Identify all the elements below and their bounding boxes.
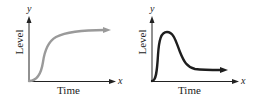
chart-logistic: y x Level Time	[0, 0, 128, 102]
x-axis-symbol: x	[118, 75, 122, 86]
y-axis-symbol: y	[150, 3, 154, 14]
chart-peak-decay: y x Level Time	[123, 0, 251, 102]
y-axis-label: Level	[136, 29, 148, 54]
y-axis	[150, 16, 155, 82]
x-axis-label: Time	[178, 84, 201, 96]
x-axis-arrow-icon	[232, 79, 239, 84]
x-axis-symbol: x	[241, 75, 245, 86]
x-axis-label: Time	[57, 84, 80, 96]
curve-arrow-icon	[220, 67, 228, 73]
y-axis-symbol: y	[27, 3, 31, 14]
logistic-curve	[29, 30, 104, 81]
peak-decay-curve	[152, 32, 221, 81]
curve-arrow-icon	[103, 27, 111, 33]
y-axis-label: Level	[13, 29, 25, 54]
y-axis-arrow-icon	[150, 16, 155, 23]
x-axis-arrow-icon	[109, 79, 116, 84]
y-axis-arrow-icon	[27, 16, 32, 23]
y-axis	[27, 16, 32, 82]
